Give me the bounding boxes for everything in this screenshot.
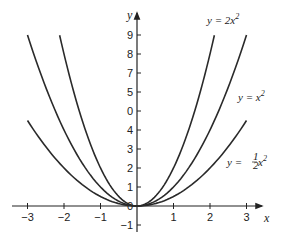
- y-tick-label: −1: [120, 219, 133, 231]
- y-tick-label: 0: [127, 105, 133, 117]
- y-tick-label: 8: [127, 48, 133, 60]
- y-tick-label: 4: [127, 124, 133, 136]
- x-tick-label: −2: [58, 211, 71, 223]
- y-tick-label: 2: [127, 162, 133, 174]
- y-tick-label: 7: [127, 67, 133, 79]
- x-axis-label: x: [263, 211, 270, 225]
- x-tick-label: 1: [170, 211, 176, 223]
- label-y-2x2: y = 2x2: [206, 12, 239, 26]
- label-half-tail: x2: [257, 154, 267, 168]
- y-axis-label: y: [126, 8, 133, 22]
- x-tick-label: 2: [207, 211, 213, 223]
- y-tick-label: 3: [127, 143, 133, 155]
- x-tick-label: 3: [243, 211, 249, 223]
- label-y-x2: y = x2: [237, 89, 265, 103]
- y-tick-label: 1: [127, 181, 133, 193]
- parabola-chart: −3−2−1123 −10123405789 x y y = 2x2 y = x…: [0, 0, 283, 245]
- x-tick-label: −1: [94, 211, 107, 223]
- x-tick-label: −3: [21, 211, 34, 223]
- label-y-half-x2: y =: [226, 156, 242, 168]
- y-tick-label: 5: [127, 86, 133, 98]
- y-tick-label: 9: [127, 29, 133, 41]
